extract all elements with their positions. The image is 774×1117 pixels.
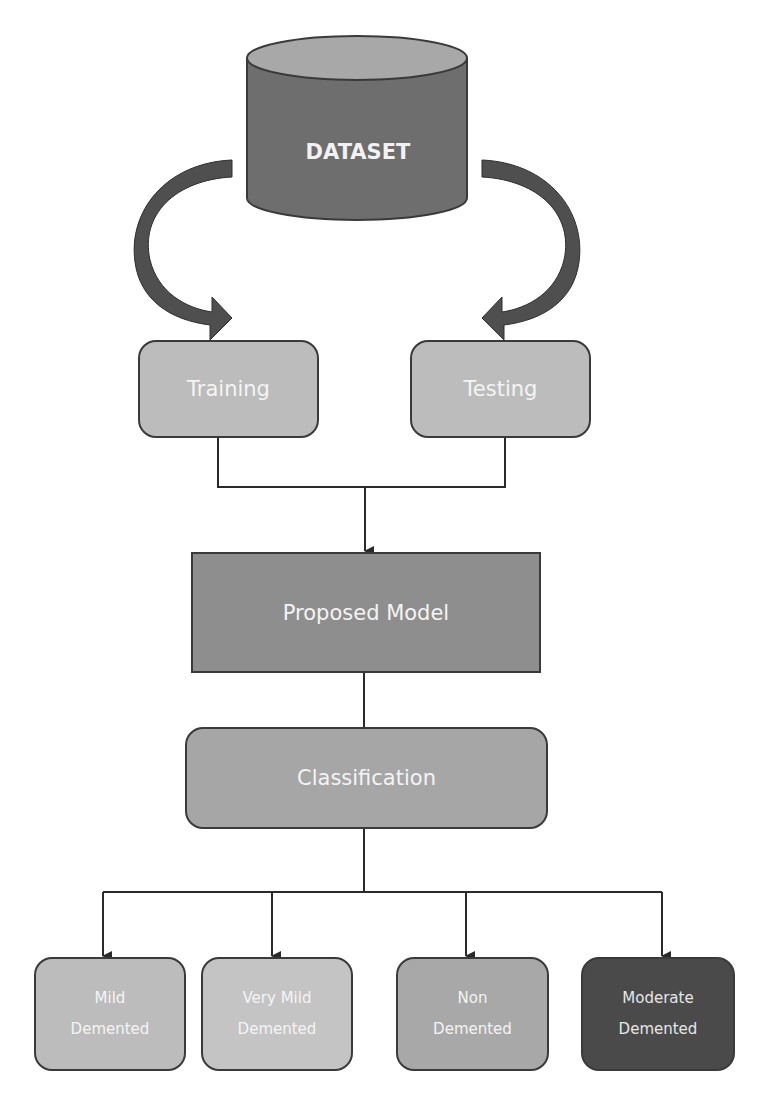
dataset-cylinder-icon — [247, 36, 467, 220]
class-label-line2: Demented — [71, 1014, 150, 1045]
testing-label: Testing — [464, 377, 538, 401]
class-label-line1: Moderate — [619, 983, 698, 1014]
dataset-label: DATASET — [247, 140, 469, 164]
class-node-moderate-demented: Moderate Demented — [581, 957, 735, 1071]
testing-node: Testing — [410, 340, 591, 438]
training-label: Training — [187, 377, 270, 401]
proposed-model-node: Proposed Model — [191, 552, 541, 673]
curved-arrow-right-icon — [482, 160, 580, 340]
class-label-line2: Demented — [238, 1014, 317, 1045]
training-node: Training — [138, 340, 319, 438]
class-node-mild-demented: Mild Demented — [34, 957, 186, 1071]
classification-node: Classification — [185, 727, 548, 829]
class-node-very-mild-demented: Very Mild Demented — [201, 957, 353, 1071]
classification-label: Classification — [297, 766, 436, 790]
proposed-model-label: Proposed Model — [283, 601, 449, 625]
class-label-line1: Very Mild — [238, 983, 317, 1014]
class-label-line1: Mild — [71, 983, 150, 1014]
class-label-line1: Non — [433, 983, 512, 1014]
class-node-non-demented: Non Demented — [396, 957, 549, 1071]
class-label-line2: Demented — [433, 1014, 512, 1045]
class-label-line2: Demented — [619, 1014, 698, 1045]
curved-arrow-left-icon — [134, 160, 232, 340]
